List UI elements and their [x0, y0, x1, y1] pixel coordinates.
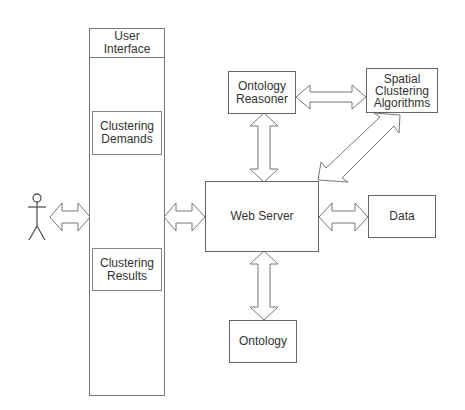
- ontology-node: Ontology: [229, 320, 297, 363]
- user-interface-title-label: User Interface: [104, 30, 151, 56]
- ontology-reasoner-label: Ontology Reasoner: [236, 80, 288, 106]
- arrow-reasoner-clustering: [296, 85, 366, 109]
- data-label: Data: [389, 210, 414, 223]
- user-interface-title: User Interface: [89, 28, 165, 58]
- arrow-ui-webserver: [164, 203, 205, 231]
- arrow-webserver-data: [319, 203, 368, 231]
- spatial-clustering-label: Spatial Clustering Algorithms: [374, 73, 431, 109]
- arrow-reasoner-webserver: [250, 113, 278, 182]
- clustering-demands-section: Clustering Demands: [92, 111, 162, 155]
- data-node: Data: [368, 195, 436, 238]
- web-server-node: Web Server: [205, 181, 319, 252]
- arrow-clustering-webserver: [318, 113, 400, 182]
- arrow-webserver-ontology: [250, 251, 278, 320]
- arrow-actor-ui: [50, 203, 90, 231]
- clustering-results-label: Clustering Results: [100, 257, 154, 283]
- ontology-reasoner-node: Ontology Reasoner: [228, 71, 296, 114]
- spatial-clustering-node: Spatial Clustering Algorithms: [366, 68, 438, 113]
- ontology-label: Ontology: [239, 335, 287, 348]
- user-interface-column: [89, 28, 165, 396]
- clustering-results-section: Clustering Results: [92, 248, 162, 291]
- actor-icon: [28, 194, 46, 240]
- web-server-label: Web Server: [230, 210, 293, 223]
- clustering-demands-label: Clustering Demands: [100, 120, 154, 146]
